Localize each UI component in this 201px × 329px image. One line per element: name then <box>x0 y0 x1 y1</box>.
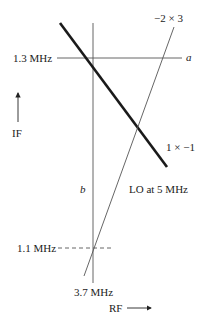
spur-line-1x-1 <box>60 23 167 167</box>
label-1x-1: 1 × −1 <box>166 142 195 153</box>
spur-line-minus2x3 <box>84 27 174 276</box>
label-3-7-mhz: 3.7 MHz <box>74 287 113 298</box>
label-minus2x3: −2 × 3 <box>154 13 183 24</box>
spur-chart-canvas <box>0 0 201 329</box>
label-line-a: a <box>186 52 192 63</box>
label-rf-axis: RF <box>109 303 122 314</box>
label-if-axis: IF <box>12 128 22 139</box>
label-1-1-mhz: 1.1 MHz <box>17 243 56 254</box>
label-lo-note: LO at 5 MHz <box>129 184 188 195</box>
label-line-b: b <box>80 184 86 195</box>
label-1-3-mhz: 1.3 MHz <box>13 53 52 64</box>
